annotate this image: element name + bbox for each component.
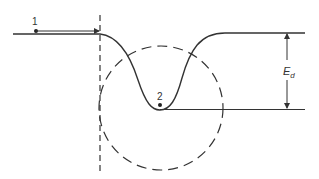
- potential-well-diagram: 1 2 Ed: [0, 0, 319, 179]
- point-2-label: 2: [157, 91, 163, 102]
- dashed-capture-circle: [99, 46, 223, 170]
- point-1-label: 1: [32, 16, 38, 27]
- point-2-dot: [158, 103, 162, 107]
- energy-depth-label: Ed: [283, 65, 295, 80]
